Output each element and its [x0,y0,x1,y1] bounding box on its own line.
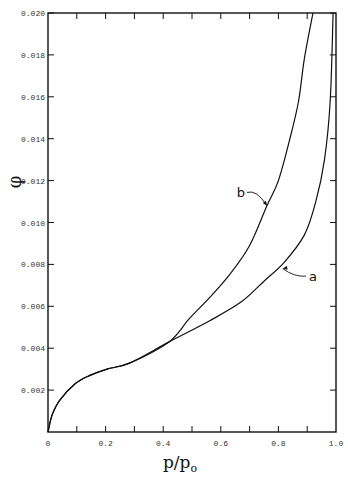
arrowhead-b-icon [263,201,267,206]
arrow-a [283,269,306,277]
y-tick-labels: 0.0020.0040.0060.0080.0100.0120.0140.016… [21,9,45,395]
x-tick-label: 0.4 [156,439,171,448]
curves [48,13,333,432]
y-tick-label: 0.002 [21,386,45,395]
y-tick-label: 0.014 [21,135,45,144]
chart: 0.0020.0040.0060.0080.0100.0120.0140.016… [0,0,348,482]
x-axis-title: p/po [163,452,198,475]
curve-label-b: b [237,185,245,200]
curve-b [48,13,313,432]
y-axis-title: φ [4,176,25,189]
curve-a [48,13,333,432]
y-tick-label: 0.020 [21,9,45,18]
plot-frame [48,13,336,432]
x-tick-label: 0.8 [271,439,286,448]
y-tick-label: 0.018 [21,51,45,60]
y-tick-label: 0.004 [21,344,45,353]
x-tick-label: 1.0 [329,439,344,448]
y-tick-label: 0.016 [21,93,45,102]
x-tick-label: 0.6 [214,439,229,448]
x-tick-labels: 00.20.40.60.81.0 [46,439,344,448]
y-tick-label: 0.008 [21,260,45,269]
axis-ticks [48,13,336,432]
x-axis-title-main: p/p [163,452,191,472]
curve-label-a: a [309,269,317,284]
x-tick-label: 0.2 [98,439,113,448]
y-tick-label: 0.006 [21,302,45,311]
x-tick-label: 0 [46,439,51,448]
x-axis-title-sub: o [190,462,197,475]
y-tick-label: 0.010 [21,219,45,228]
